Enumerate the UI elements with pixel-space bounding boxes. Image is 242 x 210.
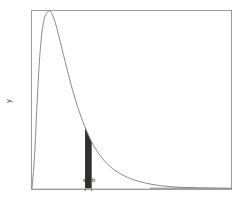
y-axis-label: y: [2, 94, 16, 108]
x-tick-label-b: b: [90, 177, 98, 184]
plot-frame: [32, 11, 232, 190]
x-tick-label-a: a: [81, 177, 89, 184]
plot-canvas: [0, 0, 242, 210]
density-curve-figure: y a b: [0, 0, 242, 210]
